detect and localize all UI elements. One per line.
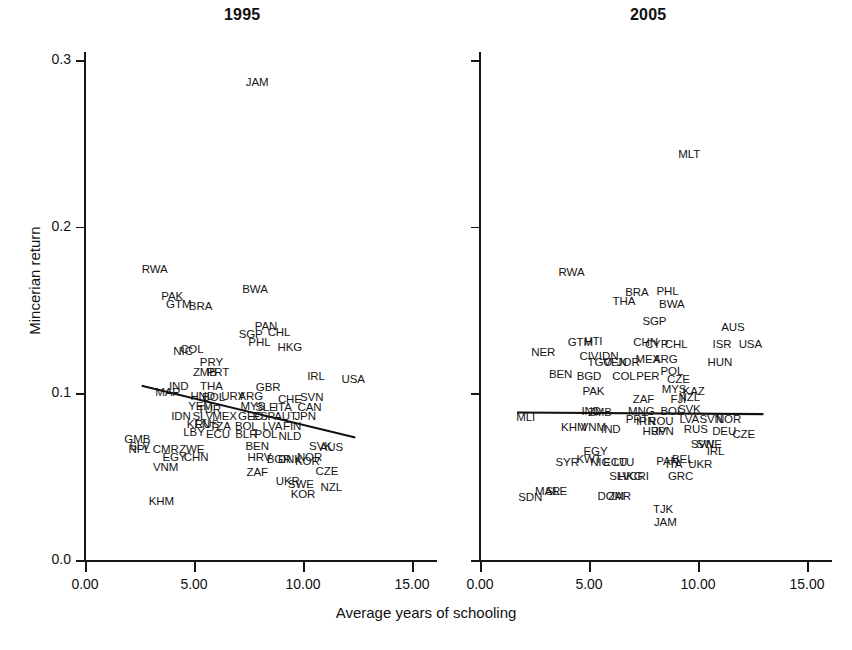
point-label-SDN: SDN: [518, 493, 542, 505]
point-label-USA: USA: [739, 339, 762, 351]
point-label-IND: IND: [601, 424, 621, 436]
y-tick-0.3: [471, 60, 480, 62]
x-axis-spine-2005: [479, 560, 832, 562]
y-tick-0.0: [471, 560, 480, 562]
point-label-PAK: PAK: [582, 386, 604, 398]
point-label-ZAR: ZAR: [608, 491, 631, 503]
point-label-BWA: BWA: [659, 299, 684, 311]
x-tick-10.00: [698, 562, 700, 572]
x-tick-0.00: [480, 562, 482, 572]
point-label-JPN: JPN: [652, 426, 673, 438]
point-label-HUN: HUN: [707, 358, 732, 370]
point-label-LTU: LTU: [614, 458, 635, 470]
x-tick-5.00: [589, 562, 591, 572]
panel-2005: 0.005.0010.0015.00MLTRWABRAPHLTHABWASGPA…: [0, 0, 852, 650]
point-label-COL: COL: [612, 371, 635, 383]
x-tick-label-15.00: 15.00: [767, 576, 847, 592]
point-label-CZE: CZE: [732, 429, 755, 441]
point-label-GRC: GRC: [668, 471, 693, 483]
y-axis-spine-2005: [479, 52, 481, 560]
y-tick-0.1: [471, 393, 480, 395]
point-label-PHL: PHL: [656, 286, 678, 298]
point-label-TJK: TJK: [653, 504, 673, 516]
point-label-SLE: SLE: [546, 486, 567, 498]
point-label-ISR: ISR: [713, 339, 732, 351]
point-label-RUS: RUS: [684, 424, 708, 436]
point-label-NER: NER: [531, 348, 555, 360]
point-label-SYR: SYR: [556, 458, 579, 470]
point-label-BGD: BGD: [577, 371, 602, 383]
point-label-HTI: HTI: [584, 336, 602, 348]
point-label-THA: THA: [613, 296, 636, 308]
point-label-RWA: RWA: [559, 268, 585, 280]
x-tick-label-10.00: 10.00: [658, 576, 738, 592]
point-label-IRL: IRL: [707, 446, 725, 458]
point-label-SGP: SGP: [642, 316, 666, 328]
point-label-MLT: MLT: [678, 149, 700, 161]
x-tick-label-0.00: 0.00: [440, 576, 520, 592]
point-label-CRI: CRI: [629, 471, 649, 483]
point-label-PER: PER: [636, 371, 659, 383]
point-label-JAM: JAM: [654, 518, 677, 530]
point-label-AUS: AUS: [721, 323, 744, 335]
y-tick-0.2: [471, 227, 480, 229]
x-tick-label-5.00: 5.00: [549, 576, 629, 592]
point-label-CHL: CHL: [665, 339, 688, 351]
mincerian-return-scatter-figure: 1995 2005 Mincerian return Average years…: [0, 0, 852, 650]
point-label-BEN: BEN: [549, 369, 572, 381]
point-label-MLI: MLI: [516, 413, 535, 425]
point-label-ZMB: ZMB: [588, 408, 612, 420]
x-tick-15.00: [807, 562, 809, 572]
